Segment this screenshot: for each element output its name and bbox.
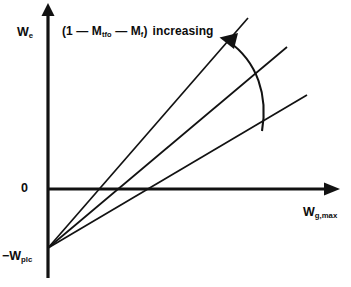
caption-suffix: ) (143, 24, 147, 38)
caption-minus-one: — (76, 24, 92, 38)
negative-intercept-label: −Wplc (2, 250, 32, 263)
ray-family (48, 18, 307, 248)
caption-m-first: M (92, 24, 102, 38)
x-axis (48, 183, 340, 196)
diagram-svg (0, 0, 351, 287)
figure-canvas: We Wg,max 0 −Wplc (1 — Mtfo — Mf)increas… (0, 0, 351, 287)
y-axis-label: We (17, 26, 33, 39)
caption-trailing-word: increasing (153, 24, 214, 38)
origin-tick-label: 0 (21, 182, 28, 195)
caption-m-second: M (131, 24, 141, 38)
x-axis-label: Wg,max (303, 206, 337, 219)
caption-prefix: (1 (62, 24, 76, 38)
ray-shallowest (48, 95, 307, 248)
parameter-sweep-caption: (1 — Mtfo — Mf)increasing (62, 25, 214, 37)
increasing-direction-arc (220, 33, 264, 131)
ray-steepest (48, 18, 248, 248)
ray-middle (48, 47, 287, 248)
caption-m-first-sub: tfo (102, 30, 112, 39)
caption-minus-two: — (112, 24, 131, 38)
y-axis (42, 3, 55, 278)
